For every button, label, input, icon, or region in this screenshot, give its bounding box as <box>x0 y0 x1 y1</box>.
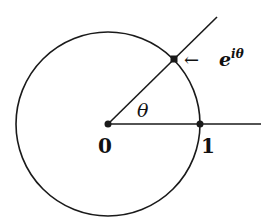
theta-label: θ <box>137 99 149 121</box>
e-i-theta-point <box>171 56 178 63</box>
arrow-icon: ← <box>184 49 199 70</box>
e-base: e <box>219 48 231 70</box>
e-i-theta-label: eiθ <box>219 47 244 70</box>
origin-point <box>105 121 112 128</box>
one-label: 1 <box>201 134 215 158</box>
unit-circle-diagram: 0 1 θ ← eiθ <box>0 0 273 220</box>
origin-label: 0 <box>98 134 112 158</box>
i-theta-exponent: iθ <box>231 47 244 61</box>
one-point <box>197 121 204 128</box>
